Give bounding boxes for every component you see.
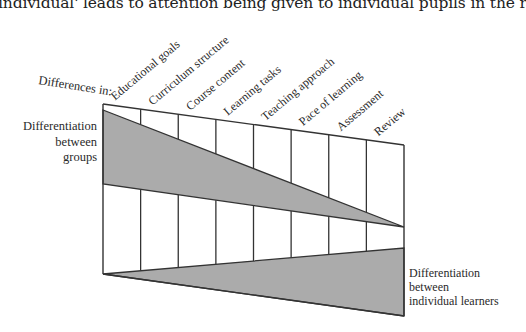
groups-label-line: Differentiation xyxy=(23,119,97,135)
learners-label-line: individual learners xyxy=(409,295,499,309)
groups-label: Differentiation between groups xyxy=(23,119,97,166)
learners-label-line: Differentiation xyxy=(409,267,499,281)
groups-label-line: between xyxy=(23,135,97,151)
axis-prefix-label: Differences in: xyxy=(38,73,114,98)
individual-learners-label: Differentiation between individual learn… xyxy=(409,267,499,308)
learners-label-line: between xyxy=(409,281,499,295)
groups-label-line: groups xyxy=(23,150,97,166)
column-label: Review xyxy=(371,104,408,139)
column-label: Teaching approach xyxy=(258,54,337,123)
